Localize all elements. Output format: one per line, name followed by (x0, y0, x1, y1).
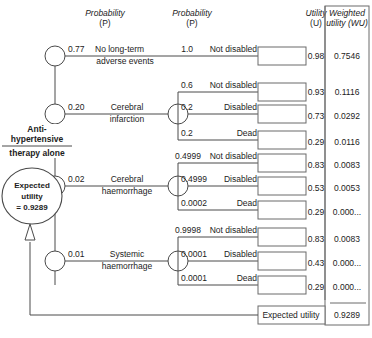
terminal-box-9 (258, 276, 306, 294)
branch-label-1-line1: Cerebral (111, 102, 144, 112)
weighted-utility-value-6: 0.000... (333, 207, 361, 217)
outcome-name-3-1: Disabled (224, 249, 257, 259)
outcome-name-1-0: Not disabled (210, 80, 258, 90)
header-probability-1-line1: Probability (85, 8, 125, 18)
utility-value-9: 0.29 (308, 282, 325, 292)
branch-label-2-line2: haemorrhage (102, 186, 153, 196)
branch-probability-1: 0.20 (68, 102, 85, 112)
outcome-name-3-2: Dead (237, 273, 258, 283)
branch-probability-0: 0.77 (68, 44, 85, 54)
terminal-box-2 (258, 105, 306, 123)
outcome-probability-1-2: 0.2 (181, 128, 193, 138)
weighted-utility-value-1: 0.1116 (335, 87, 360, 97)
header-weighted-utility-line1: Weighted (329, 8, 365, 18)
utility-value-5: 0.53 (308, 183, 325, 193)
chance-node-branch-1 (45, 104, 65, 124)
branch-group-2: 0.02 Cerebral haemorrhage 0.4999 Not dis… (45, 151, 258, 210)
utility-value-6: 0.29 (308, 207, 325, 217)
weighted-utility-value-7: 0.0083 (334, 234, 360, 244)
utility-value-7: 0.83 (308, 234, 325, 244)
strategy-label: Anti- hypertensive therapy alone (2, 124, 72, 158)
branch-label-2-line1: Cerebral (111, 174, 144, 184)
utility-value-1: 0.93 (308, 87, 325, 97)
total-expected-utility-label: Expected utility (262, 310, 320, 320)
utility-value-3: 0.29 (308, 137, 325, 147)
outcome-name-1-2: Dead (237, 128, 258, 138)
terminal-box-3 (258, 131, 306, 149)
outcome-probability-3-0: 0.9998 (175, 225, 201, 235)
strategy-label-line2: hypertensive (11, 134, 64, 144)
outcome-probability-1-0: 0.6 (181, 80, 193, 90)
strategy-label-line3: therapy alone (9, 148, 65, 158)
feedback-arrow-icon (25, 224, 35, 240)
outcome-name-1-1: Disabled (224, 102, 257, 112)
weighted-utility-value-4: 0.0083 (334, 160, 360, 170)
weighted-utility-value-0: 0.7546 (334, 51, 360, 61)
branch-label-1-line2: infarction (110, 114, 145, 124)
chance-node-branch-3 (45, 251, 65, 271)
weighted-utility-value-9: 0.000... (333, 282, 361, 292)
weighted-utility-value-8: 0.000... (333, 258, 361, 268)
outcome-probability-1-1: 0.2 (181, 102, 193, 112)
branch-label-0-line2: adverse events (96, 56, 154, 66)
expected-utility-line2: utility (21, 192, 43, 201)
branch-group-0: 0.77 No long-term adverse events 1.0 Not… (45, 44, 258, 66)
branch-label-0-line1: No long-term (95, 44, 144, 54)
terminal-box-5 (258, 177, 306, 195)
terminal-rows: 0.98 0.7546 0.93 0.1116 0.73 0.0292 0.29… (258, 47, 361, 294)
header-weighted-utility-line2: utility (WU) (326, 18, 368, 28)
utility-value-8: 0.43 (308, 258, 325, 268)
terminal-box-6 (258, 201, 306, 219)
weighted-utility-value-3: 0.0116 (334, 137, 360, 147)
branch-label-3-line2: haemorrhage (102, 261, 153, 271)
total-expected-utility-row: Expected utility 0.9289 (258, 306, 360, 324)
terminal-box-8 (258, 252, 306, 270)
terminal-box-4 (258, 154, 306, 172)
decision-tree-figure: Probability (P) Probability (P) Utility … (0, 0, 372, 338)
utility-value-4: 0.83 (308, 160, 325, 170)
outcome-probability-0-0: 1.0 (181, 44, 193, 54)
outcome-name-3-0: Not disabled (210, 225, 258, 235)
weighted-utility-value-2: 0.0292 (334, 111, 360, 121)
strategy-label-line1: Anti- (27, 124, 47, 134)
terminal-box-7 (258, 228, 306, 246)
branch-probability-2: 0.02 (68, 174, 85, 184)
utility-value-0: 0.98 (308, 51, 325, 61)
header-probability-1-line2: (P) (99, 18, 111, 28)
terminal-box-1 (258, 83, 306, 101)
outcome-probability-2-2: 0.0002 (181, 198, 207, 208)
utility-value-2: 0.73 (308, 111, 325, 121)
outcome-probability-2-0: 0.4999 (175, 151, 201, 161)
terminal-box-0 (258, 47, 306, 65)
header-probability-2-line1: Probability (172, 8, 212, 18)
branch-group-1: 0.20 Cerebral infarction 0.6 Not disable… (45, 80, 258, 140)
header-utility-line2: (U) (310, 18, 322, 28)
expected-utility-line1: Expected (14, 181, 50, 190)
outcome-name-0-0: Not disabled (210, 44, 258, 54)
outcome-name-2-0: Not disabled (210, 151, 258, 161)
outcome-name-2-1: Disabled (224, 174, 257, 184)
weighted-utility-value-5: 0.0053 (334, 183, 360, 193)
total-expected-utility-value: 0.9289 (334, 310, 360, 320)
outcome-name-2-2: Dead (237, 198, 258, 208)
header-probability-2-line2: (P) (186, 18, 198, 28)
decision-tree-svg: Probability (P) Probability (P) Utility … (0, 0, 372, 338)
outcome-probability-3-1: 0.0001 (181, 249, 207, 259)
header-utility-line1: Utility (306, 8, 328, 18)
expected-utility-line3: = 0.9289 (16, 203, 48, 212)
chance-node-branch-0 (45, 46, 65, 66)
outcome-probability-2-1: 0.4999 (181, 174, 207, 184)
expected-utility-node: Expected utility = 0.9289 (2, 168, 62, 224)
branch-probability-3: 0.01 (68, 249, 85, 259)
branch-label-3-line1: Systemic (110, 249, 145, 259)
column-headers: Probability (P) Probability (P) Utility … (85, 8, 368, 28)
branch-group-3: 0.01 Systemic haemorrhage 0.9998 Not dis… (45, 225, 258, 285)
outcome-probability-3-2: 0.0001 (181, 273, 207, 283)
